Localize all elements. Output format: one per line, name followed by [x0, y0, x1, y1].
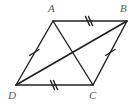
tick-marks-BC — [106, 50, 116, 56]
parallelogram-diagram — [0, 0, 136, 105]
vertex-label-B: B — [120, 3, 127, 14]
vertex-label-C: C — [89, 90, 96, 101]
vertex-label-D: D — [8, 90, 16, 101]
vertex-label-A: A — [48, 3, 55, 14]
geometry-figure: A B C D — [0, 0, 136, 105]
